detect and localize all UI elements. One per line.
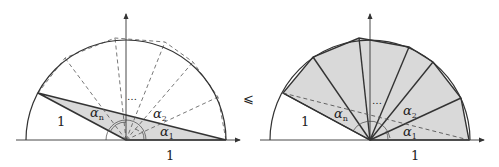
right-ellipsis: … bbox=[372, 95, 382, 106]
right-radius-label: 1 bbox=[301, 114, 309, 129]
right-figure: 1 1 … αn α2 α1 bbox=[260, 14, 484, 163]
left-ellipsis: … bbox=[127, 91, 137, 102]
left-base-label: 1 bbox=[166, 148, 174, 163]
diagram-canvas: 1 1 … αn α2 α1 ⩽ 1 1 bbox=[0, 0, 499, 167]
left-angle-alpha-2: α2 bbox=[153, 106, 167, 123]
less-or-equal-symbol: ⩽ bbox=[243, 91, 254, 106]
right-base-label: 1 bbox=[411, 148, 419, 163]
left-radius-label: 1 bbox=[57, 114, 65, 129]
left-figure: 1 1 … αn α2 α1 bbox=[16, 14, 240, 163]
left-angle-alpha-n: αn bbox=[90, 105, 104, 122]
